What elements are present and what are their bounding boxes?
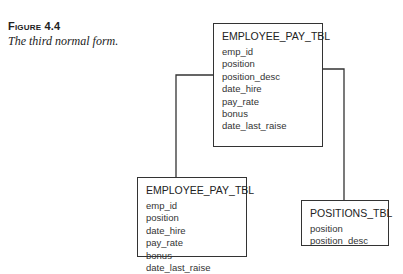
table-employee-pay-top: EMPLOYEE_PAY_TBL emp_id position positio… (213, 23, 323, 147)
field-position: position (310, 223, 388, 235)
table-title: EMPLOYEE_PAY_TBL (222, 30, 322, 43)
field-emp-id: emp_id (146, 200, 246, 212)
table-employee-pay-bottom: EMPLOYEE_PAY_TBL emp_id position date_hi… (137, 177, 247, 257)
connector-top-to-bottom (176, 75, 213, 177)
table-positions: POSITIONS_TBL position position_desc (301, 200, 389, 246)
field-position: position (222, 58, 322, 70)
field-date-last-raise: date_last_raise (222, 120, 322, 132)
field-position-desc: position_desc (222, 71, 322, 83)
field-position-desc: position_desc (310, 235, 388, 247)
field-pay-rate: pay_rate (222, 96, 322, 108)
field-date-hire: date_hire (146, 225, 246, 237)
field-bonus: bonus (146, 250, 246, 262)
field-position: position (146, 212, 246, 224)
field-bonus: bonus (222, 108, 322, 120)
table-title: EMPLOYEE_PAY_TBL (146, 184, 246, 197)
table-title: POSITIONS_TBL (310, 207, 388, 220)
field-date-hire: date_hire (222, 83, 322, 95)
field-emp-id: emp_id (222, 46, 322, 58)
field-date-last-raise: date_last_raise (146, 262, 246, 274)
field-pay-rate: pay_rate (146, 237, 246, 249)
